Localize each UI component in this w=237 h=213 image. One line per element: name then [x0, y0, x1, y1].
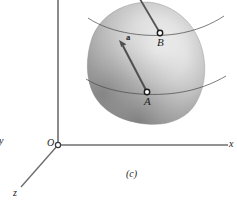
origin-label: O: [47, 138, 54, 148]
z-axis-label: z: [13, 188, 17, 198]
y-axis-label: y: [0, 136, 3, 146]
rigid-body-blob: [80, 0, 210, 130]
figure-container: A B a O x y z (c): [0, 0, 237, 213]
vector-label-a: a: [126, 33, 130, 42]
point-label-B: B: [157, 37, 164, 48]
point-label-A: A: [144, 96, 151, 107]
point-B-marker: [157, 30, 162, 35]
origin-marker: [55, 142, 60, 147]
x-axis-label: x: [229, 139, 233, 149]
figure-caption: (c): [126, 169, 137, 179]
z-axis-line: [21, 145, 58, 187]
point-A-marker: [144, 89, 149, 94]
figure-graphics: [0, 0, 237, 213]
